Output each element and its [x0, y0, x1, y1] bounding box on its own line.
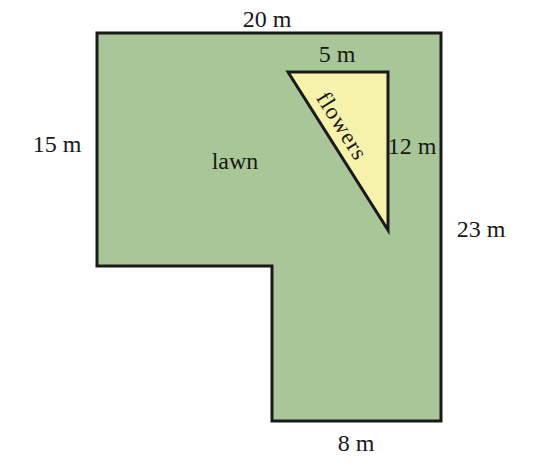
- dimension-left-height: 15 m: [33, 132, 82, 156]
- diagram-canvas: [0, 0, 536, 476]
- dimension-right-height: 23 m: [457, 217, 506, 241]
- dimension-bottom-width: 8 m: [338, 431, 375, 455]
- lawn-label: lawn: [212, 149, 259, 173]
- dimension-top-width: 20 m: [243, 7, 292, 31]
- dimension-triangle-right: 12 m: [388, 134, 437, 158]
- geometry-diagram: 20 m 5 m 15 m 12 m 23 m 8 m lawn flowers: [0, 0, 536, 476]
- dimension-triangle-top: 5 m: [319, 42, 356, 66]
